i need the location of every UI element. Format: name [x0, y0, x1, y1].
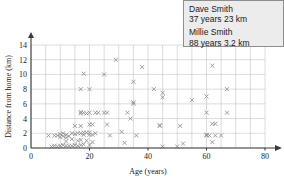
- data-point-marker: [90, 140, 94, 144]
- y-tick-label: 14: [19, 41, 27, 50]
- tick-labels: 02040608002468101214: [19, 41, 269, 161]
- data-point-marker: [158, 123, 162, 127]
- data-point-marker: [64, 139, 68, 143]
- x-tick-label: 40: [144, 152, 152, 161]
- y-axis-title: Distance from home (km): [4, 55, 13, 138]
- data-points: [47, 58, 229, 149]
- data-point-marker: [105, 122, 109, 126]
- y-tick-label: 0: [23, 144, 27, 153]
- data-point-marker: [140, 65, 144, 69]
- y-tick-label: 8: [23, 85, 27, 94]
- data-point-marker: [79, 124, 83, 128]
- data-point-marker: [225, 111, 229, 115]
- y-tick-label: 2: [23, 129, 27, 138]
- data-point-marker: [70, 137, 74, 141]
- data-point-marker: [108, 133, 112, 137]
- data-point-marker: [210, 64, 214, 68]
- data-point-marker: [134, 133, 138, 137]
- data-point-marker: [207, 133, 211, 137]
- y-tick-label: 12: [19, 56, 27, 65]
- data-point-marker: [123, 141, 127, 145]
- data-point-marker: [96, 111, 100, 115]
- data-point-marker: [126, 111, 130, 115]
- data-point-marker: [85, 111, 89, 115]
- data-point-marker: [85, 139, 89, 143]
- x-tick-label: 20: [86, 152, 94, 161]
- data-point-marker: [90, 122, 94, 126]
- data-point-marker: [79, 143, 83, 147]
- annotation-person-1-name: Dave Smith: [189, 4, 283, 14]
- data-point-marker: [105, 111, 109, 115]
- data-point-marker: [52, 144, 56, 148]
- data-point-marker: [79, 138, 83, 142]
- annotation-person-2-detail: 88 years 3.2 km: [189, 38, 283, 48]
- y-tick-label: 10: [19, 70, 27, 79]
- y-tick-label: 6: [23, 100, 27, 109]
- data-point-marker: [76, 139, 80, 143]
- data-point-marker: [61, 143, 65, 147]
- data-point-marker: [158, 124, 162, 128]
- data-point-marker: [178, 124, 182, 128]
- x-axis-title: Age (years): [129, 167, 167, 176]
- data-point-marker: [82, 142, 86, 146]
- x-tick-label: 80: [261, 152, 269, 161]
- data-point-marker: [181, 142, 185, 146]
- x-tick-label: 0: [29, 152, 33, 161]
- annotation-box: Dave Smith 37 years 23 km Millie Smith 8…: [183, 0, 284, 47]
- gridlines: [31, 45, 265, 148]
- data-point-marker: [213, 133, 217, 137]
- y-tick-label: 4: [23, 115, 27, 124]
- x-tick-label: 60: [203, 152, 211, 161]
- data-point-marker: [47, 133, 51, 137]
- data-point-marker: [213, 122, 217, 126]
- data-point-marker: [76, 144, 80, 148]
- data-point-marker: [82, 72, 86, 76]
- annotation-person-2-name: Millie Smith: [189, 27, 283, 37]
- data-point-marker: [210, 140, 214, 144]
- data-point-marker: [82, 111, 86, 115]
- annotation-person-1-detail: 37 years 23 km: [189, 14, 283, 24]
- data-point-marker: [70, 144, 74, 148]
